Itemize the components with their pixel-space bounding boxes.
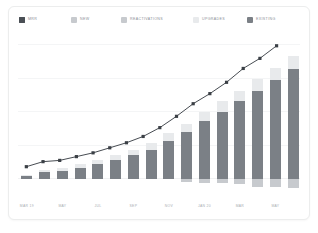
bar-segment-upgrades xyxy=(163,133,174,141)
bar-segment-existing xyxy=(288,69,299,179)
chart-card: MRRNEWREACTIVATIONSUPGRADESEXISTING MAR … xyxy=(8,6,310,220)
bar-segment-upgrades xyxy=(270,68,281,80)
legend-item-existing[interactable]: EXISTING xyxy=(247,17,276,23)
bar-column[interactable] xyxy=(21,37,32,197)
bar-segment-existing xyxy=(110,160,121,179)
bar-stack xyxy=(181,124,192,179)
bar-series-group xyxy=(18,37,300,197)
bar-column[interactable] xyxy=(217,37,228,197)
legend-label: UPGRADES xyxy=(202,18,225,22)
bar-segment-reactivations xyxy=(288,179,299,188)
x-axis-tick-label: MAR xyxy=(236,205,244,208)
bar-segment-existing xyxy=(39,172,50,179)
legend-label: NEW xyxy=(80,18,89,22)
plot-area xyxy=(18,37,300,197)
square-swatch-icon xyxy=(121,17,127,23)
bar-column[interactable] xyxy=(92,37,103,197)
bar-segment-existing xyxy=(270,80,281,179)
bar-column[interactable] xyxy=(199,37,210,197)
bar-stack xyxy=(75,164,86,179)
bar-stack xyxy=(128,150,139,179)
legend-item-mrr[interactable]: MRR xyxy=(19,17,37,23)
x-axis-tick-label: MAR 19 xyxy=(20,205,34,208)
x-axis-tick-label: JAN 20 xyxy=(198,205,211,208)
bar-segment-existing xyxy=(234,101,245,179)
bar-stack xyxy=(234,91,245,179)
bar-segment-upgrades xyxy=(199,112,210,121)
bar-column[interactable] xyxy=(252,37,263,197)
bar-stack xyxy=(146,143,157,179)
bar-stack xyxy=(163,133,174,179)
x-axis-tick-label: JUL xyxy=(94,205,101,208)
square-swatch-icon xyxy=(247,17,253,23)
bar-segment-reactivations xyxy=(217,179,228,183)
x-axis-tick-label: SEP xyxy=(130,205,138,208)
x-axis-tick-label: MAY xyxy=(271,205,279,208)
bar-column[interactable] xyxy=(181,37,192,197)
bar-column[interactable] xyxy=(57,37,68,197)
bar-segment-existing xyxy=(163,141,174,179)
legend-label: MRR xyxy=(28,18,37,22)
bar-segment-existing xyxy=(146,150,157,179)
bar-segment-existing xyxy=(252,91,263,179)
bar-column[interactable] xyxy=(270,37,281,197)
bar-column[interactable] xyxy=(39,37,50,197)
bar-segment-upgrades xyxy=(146,143,157,150)
bar-column[interactable] xyxy=(110,37,121,197)
bar-segment-existing xyxy=(75,168,86,179)
square-swatch-icon xyxy=(193,17,199,23)
bar-segment-existing xyxy=(57,171,68,179)
bar-stack xyxy=(92,160,103,179)
legend-item-reactivations[interactable]: REACTIVATIONS xyxy=(121,17,163,23)
bar-column[interactable] xyxy=(234,37,245,197)
x-axis-tick-label: NOV xyxy=(165,205,173,208)
bar-segment-upgrades xyxy=(217,101,228,112)
bar-column[interactable] xyxy=(75,37,86,197)
bar-column[interactable] xyxy=(146,37,157,197)
bar-stack xyxy=(39,170,50,179)
legend-item-upgrades[interactable]: UPGRADES xyxy=(193,17,225,23)
x-axis-tick-label: MAY xyxy=(58,205,66,208)
bar-segment-existing xyxy=(92,164,103,179)
bar-segment-upgrades xyxy=(288,56,299,69)
bar-segment-existing xyxy=(217,112,228,179)
bar-segment-upgrades xyxy=(252,79,263,91)
bar-segment-reactivations xyxy=(234,179,245,184)
bar-column[interactable] xyxy=(128,37,139,197)
x-axis-labels: MAR 19MAYJULSEPNOVJAN 20MARMAY xyxy=(18,205,300,217)
bar-segment-existing xyxy=(181,132,192,179)
bar-segment-reactivations xyxy=(270,179,281,187)
bar-segment-upgrades xyxy=(234,91,245,102)
bar-stack xyxy=(217,101,228,179)
chart-legend: MRRNEWREACTIVATIONSUPGRADESEXISTING xyxy=(9,7,309,33)
bar-segment-reactivations xyxy=(199,179,210,183)
bar-segment-reactivations xyxy=(181,179,192,182)
bar-segment-existing xyxy=(21,176,32,179)
bar-column[interactable] xyxy=(288,37,299,197)
bar-stack xyxy=(21,175,32,179)
bar-segment-reactivations xyxy=(252,179,263,187)
legend-label: REACTIVATIONS xyxy=(130,18,163,22)
legend-item-new[interactable]: NEW xyxy=(71,17,89,23)
square-swatch-icon xyxy=(71,17,77,23)
bar-stack xyxy=(270,68,281,179)
bar-segment-existing xyxy=(199,121,210,179)
bar-segment-upgrades xyxy=(181,124,192,132)
bar-stack xyxy=(288,56,299,179)
legend-label: EXISTING xyxy=(256,18,276,22)
bar-stack xyxy=(110,155,121,179)
checkbox-checked-icon xyxy=(19,17,25,23)
bar-column[interactable] xyxy=(163,37,174,197)
bar-segment-existing xyxy=(128,155,139,179)
bar-stack xyxy=(252,79,263,179)
bar-stack xyxy=(199,112,210,179)
bar-stack xyxy=(57,168,68,179)
